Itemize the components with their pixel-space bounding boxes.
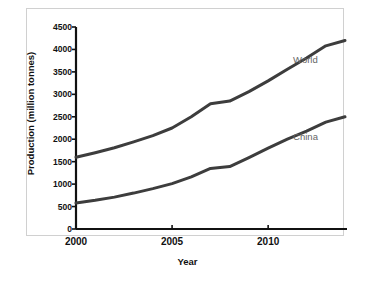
x-tick-label: 2005 [149,236,195,247]
y-tick-label: 1000 [42,179,72,189]
y-tick-label: 2500 [42,112,72,122]
y-tick-label: 4500 [42,22,72,32]
chart-figure: Production (million tonnes) Year 0500100… [0,0,375,282]
series-label-china: China [293,131,318,142]
y-tick-label: 500 [42,202,72,212]
y-tick-label: 1500 [42,157,72,167]
y-tick-label: 3000 [42,89,72,99]
plot-area: 050010001500200025003000350040004500 200… [0,0,375,282]
x-tick-label: 2000 [53,236,99,247]
series-label-world: World [293,54,318,65]
y-tick-label: 0 [42,224,72,234]
y-tick-label: 3500 [42,67,72,77]
x-tick-label: 2010 [245,236,291,247]
y-tick-label: 2000 [42,134,72,144]
y-tick-label: 4000 [42,44,72,54]
